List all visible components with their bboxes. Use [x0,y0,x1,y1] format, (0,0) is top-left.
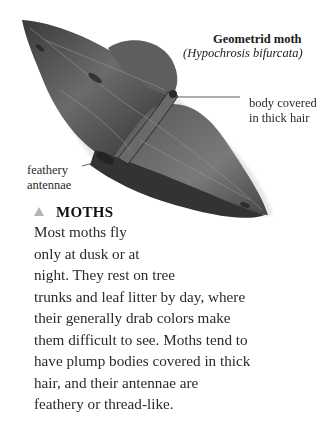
figure-title: Geometrid moth [213,32,302,47]
section-heading: MOTHS [34,204,113,221]
body-line: only at dusk or at [34,243,250,265]
body-line: have plump bodies covered in thick [34,350,250,372]
body-line: Most moths fly [34,221,250,243]
figure-scientific-name: (Hypochrosis bifurcata) [183,46,303,61]
triangle-icon [34,207,44,216]
body-line: them difficult to see. Moths tend to [34,329,250,351]
body-line: trunks and leaf litter by day, where [34,286,250,308]
annotation-body: body covered in thick hair [249,96,317,126]
body-line: their generally drab colors make [34,307,250,329]
section-body: Most moths fly only at dusk or at night.… [34,221,250,415]
body-line: feathery or thread-like. [34,393,250,415]
body-line: hair, and their antennae are [34,372,250,394]
annotation-antennae: feathery antennae [27,163,71,193]
body-line: night. They rest on tree [34,264,250,286]
